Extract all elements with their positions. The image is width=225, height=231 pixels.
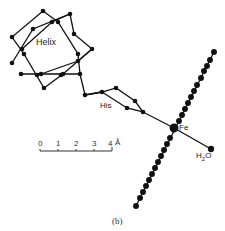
figure-caption: (b) — [112, 216, 123, 226]
water-label: H2O — [196, 152, 211, 162]
histidine-ring — [85, 88, 174, 128]
scale-tick-2: 2 — [74, 139, 78, 148]
histidine-atoms — [100, 86, 146, 115]
helix-atoms — [10, 9, 95, 98]
scale-tick-1: 1 — [56, 139, 60, 148]
helix-label: Helix — [36, 38, 56, 47]
scale-tick-0: 0 — [38, 139, 42, 148]
fe-atom — [170, 124, 178, 132]
scale-tick-4: 4 — [108, 139, 112, 148]
heme-helix-diagram — [0, 0, 225, 231]
water-o: O — [205, 151, 211, 160]
scale-tick-3: 3 — [92, 139, 96, 148]
iron-water-bond — [170, 124, 213, 151]
scale-unit: Å — [115, 138, 120, 147]
his-label: His — [100, 102, 112, 110]
fe-label: Fe — [179, 124, 188, 132]
